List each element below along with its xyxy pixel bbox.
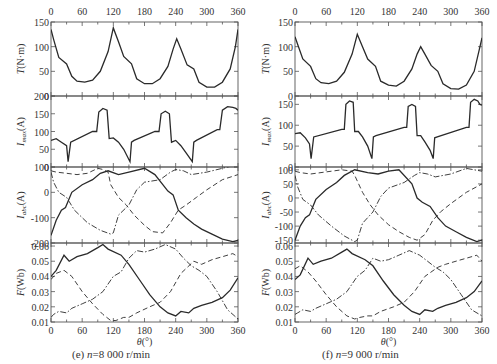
y-tick-label: -100 (275, 221, 293, 232)
x-tick-label-top: 300 (199, 6, 214, 17)
y-axis-label: Iabc(A) (15, 191, 28, 219)
x-tick-label-top: 60 (321, 6, 331, 17)
caption-f-prefix: (f) (322, 348, 336, 360)
y-tick-label: 0.06 (32, 241, 50, 252)
y-tick-label: 0.01 (276, 317, 294, 328)
y-axis-label: T(N·m) (260, 44, 272, 75)
y-axis-label: Iabc(A) (260, 191, 273, 219)
y-tick-label: 0.04 (276, 271, 294, 282)
x-tick-label-top: 60 (77, 6, 87, 17)
y-tick-label: 0.03 (32, 287, 50, 298)
figure-canvas: 050100150T(N·m)050100150200Imax(A)-200-1… (0, 0, 497, 364)
y-axis-label: Imax(A) (15, 117, 28, 147)
y-axis-label: F(Wb) (260, 269, 272, 297)
x-tick-label-bottom: 360 (231, 325, 246, 336)
series-Ia (51, 168, 238, 241)
y-tick-label: 0.03 (276, 287, 294, 298)
x-tick-label-bottom: 120 (350, 325, 365, 336)
y-tick-label: 100 (34, 162, 49, 173)
y-tick-label: 50 (283, 179, 293, 190)
series-Imax (295, 99, 482, 158)
panel-Imax: 050100150Imax(A) (260, 96, 482, 173)
series-Imax (51, 107, 238, 162)
y-tick-label: 100 (278, 42, 293, 53)
y-tick-label: 0 (44, 187, 49, 198)
series-Ic (51, 165, 238, 235)
y-tick-label: 150 (34, 109, 49, 120)
series-Ib (295, 170, 482, 240)
series-T (295, 34, 482, 89)
y-tick-label: -50 (280, 207, 293, 218)
x-tick-label-top: 0 (293, 6, 298, 17)
y-tick-label: -100 (31, 213, 49, 224)
x-tick-label-top: 360 (231, 6, 246, 17)
y-tick-label: 150 (278, 99, 293, 110)
panel-F: 0.010.020.030.040.050.06F(Wb) (15, 241, 238, 328)
caption-f-value: =9 000 r/min (341, 348, 399, 360)
x-tick-label-bottom: 180 (381, 325, 396, 336)
x-tick-label-top: 300 (443, 6, 458, 17)
panel-Iabc: -150-100-50050100Iabc(A) (260, 165, 482, 246)
x-tick-label-top: 120 (106, 6, 121, 17)
y-tick-label: 50 (39, 144, 49, 155)
series-Fa (295, 249, 482, 314)
y-tick-label: 0.05 (32, 256, 50, 267)
y-tick-label: 100 (278, 165, 293, 176)
y-tick-label: 50 (283, 66, 293, 77)
y-tick-label: 200 (34, 91, 49, 102)
subplot-f: 050100150T(N·m)050100150Imax(A)-150-100-… (260, 6, 490, 348)
caption-f: (f) n=9 000 r/min (322, 348, 399, 360)
x-tick-label-top: 120 (350, 6, 365, 17)
x-tick-label-top: 240 (168, 6, 183, 17)
y-tick-label: 50 (39, 66, 49, 77)
x-tick-label-bottom: 300 (199, 325, 214, 336)
x-tick-label-bottom: 60 (321, 325, 331, 336)
y-tick-label: 0.04 (32, 271, 50, 282)
x-axis-label: θ(°) (137, 336, 153, 348)
y-axis-label: Imax(A) (260, 117, 273, 147)
x-tick-label-top: 180 (137, 6, 152, 17)
x-tick-label-bottom: 240 (412, 325, 427, 336)
series-Ib (51, 168, 238, 233)
caption-e-prefix: (e) (72, 348, 87, 360)
caption-e-value: =8 000 r/min (92, 348, 150, 360)
y-tick-label: 50 (283, 141, 293, 152)
x-tick-label-bottom: 120 (106, 325, 121, 336)
subplot-e: 050100150T(N·m)050100150200Imax(A)-200-1… (15, 6, 246, 348)
y-tick-label: 100 (34, 42, 49, 53)
series-Ia (295, 170, 482, 242)
y-tick-label: 100 (34, 127, 49, 138)
panel-T: 050100150T(N·m) (15, 17, 238, 102)
y-tick-label: 0 (288, 193, 293, 204)
x-tick-label-bottom: 60 (77, 325, 87, 336)
y-tick-label: 150 (34, 17, 49, 28)
y-tick-label: 0.06 (276, 241, 294, 252)
caption-e: (e) n=8 000 r/min (72, 348, 150, 360)
panel-F: 0.010.020.030.040.050.06F(Wb) (260, 241, 482, 328)
y-axis-label: F(Wb) (15, 269, 27, 297)
y-tick-label: 0.05 (276, 256, 294, 267)
x-tick-label-bottom: 300 (443, 325, 458, 336)
x-tick-label-bottom: 0 (293, 325, 298, 336)
y-tick-label: 150 (278, 17, 293, 28)
x-tick-label-top: 360 (475, 6, 490, 17)
x-tick-label-top: 180 (381, 6, 396, 17)
y-tick-label: 0.01 (32, 317, 50, 328)
panel-T: 050100150T(N·m) (260, 17, 482, 102)
x-tick-label-bottom: 0 (49, 325, 54, 336)
y-tick-label: 0.02 (32, 302, 50, 313)
series-T (51, 28, 238, 87)
panel-Imax: 050100150200Imax(A) (15, 91, 238, 173)
y-tick-label: 100 (278, 120, 293, 131)
x-axis-label: θ(°) (381, 336, 397, 348)
x-tick-label-top: 240 (412, 6, 427, 17)
y-axis-label: T(N·m) (15, 44, 27, 75)
y-tick-label: 0.02 (276, 302, 294, 313)
panel-Iabc: -200-1000100Iabc(A) (15, 162, 238, 249)
series-Fa (51, 245, 238, 316)
x-tick-label-bottom: 180 (137, 325, 152, 336)
x-tick-label-bottom: 240 (168, 325, 183, 336)
x-tick-label-top: 0 (49, 6, 54, 17)
x-tick-label-bottom: 360 (475, 325, 490, 336)
